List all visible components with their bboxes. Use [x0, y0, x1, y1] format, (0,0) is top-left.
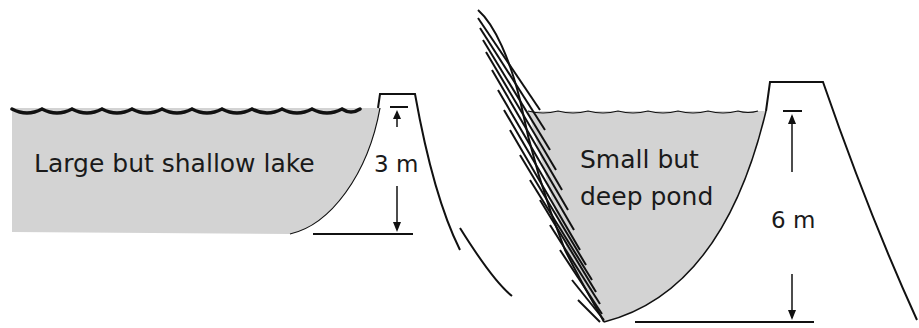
arrow-up-icon: [788, 114, 796, 124]
diagram-svg: Large but shallow lake 3 m: [0, 0, 919, 328]
shallow-depth-label: 3 m: [374, 151, 418, 177]
deep-pond-dam: [766, 82, 917, 320]
shallow-lake-group: Large but shallow lake 3 m: [12, 94, 460, 250]
deep-pond-group: Small but deep pond 6 m: [460, 10, 917, 322]
arrow-down-icon: [788, 310, 796, 320]
shallow-lake-label: Large but shallow lake: [34, 149, 315, 178]
deep-pond-label-line1: Small but: [580, 145, 699, 174]
rock-outline: [460, 228, 512, 296]
deep-pond-water: [528, 111, 766, 322]
arrow-down-icon: [393, 222, 401, 232]
deep-depth-label: 6 m: [771, 207, 815, 233]
deep-pond-label-line2: deep pond: [580, 182, 713, 211]
arrow-up-icon: [393, 110, 401, 119]
lake-vs-pond-diagram: Large but shallow lake 3 m: [0, 0, 919, 328]
